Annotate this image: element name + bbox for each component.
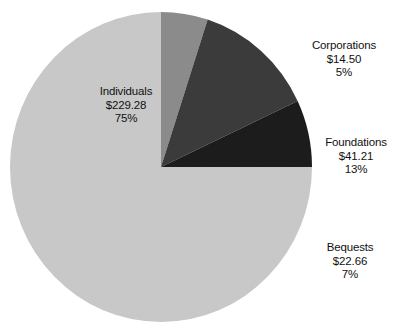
pie-label-individuals-percent: 75% (76, 112, 176, 126)
pie-label-bequests-name: Bequests (302, 241, 398, 255)
pie-label-corporations-percent: 5% (286, 66, 402, 80)
pie-label-corporations: Corporations $14.50 5% (286, 39, 402, 80)
pie-label-bequests-value: $22.66 (302, 255, 398, 269)
pie-slices-group (10, 12, 312, 322)
pie-label-corporations-value: $14.50 (286, 53, 402, 67)
pie-label-individuals-value: $229.28 (76, 99, 176, 113)
pie-label-bequests: Bequests $22.66 7% (302, 241, 398, 282)
pie-label-foundations-percent: 13% (308, 163, 404, 177)
pie-label-individuals-name: Individuals (76, 85, 176, 99)
pie-label-corporations-name: Corporations (286, 39, 402, 53)
pie-label-foundations-name: Foundations (308, 136, 404, 150)
pie-label-foundations-value: $41.21 (308, 150, 404, 164)
pie-label-foundations: Foundations $41.21 13% (308, 136, 404, 177)
pie-label-individuals: Individuals $229.28 75% (76, 85, 176, 126)
pie-chart: Individuals $229.28 75% Corporations $14… (0, 0, 406, 335)
pie-label-bequests-percent: 7% (302, 268, 398, 282)
